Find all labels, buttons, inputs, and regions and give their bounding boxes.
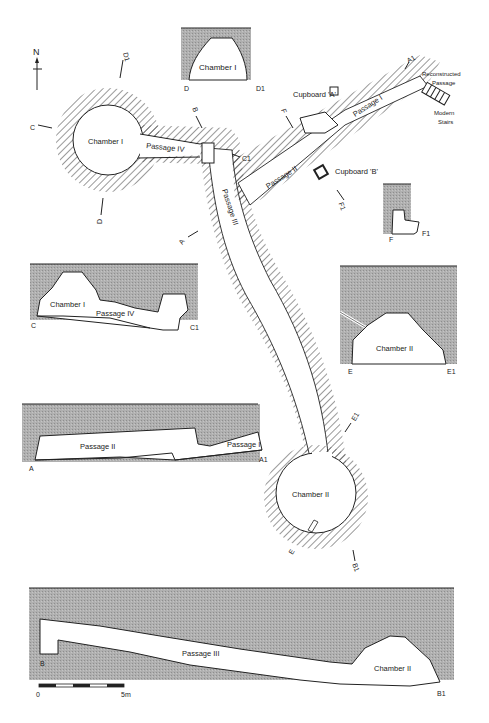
section-ff1-end: F1 — [422, 230, 430, 237]
marker-c1: C1 — [242, 155, 251, 162]
section-aa1-end: A1 — [259, 456, 268, 463]
section-cc1-end: C1 — [190, 324, 199, 331]
section-ff1-start: F — [389, 236, 393, 243]
cupboard-b-label: Cupboard 'B' — [335, 167, 378, 176]
section-ee1-start: E — [348, 368, 353, 375]
modern-stairs-label-2: Stairs — [438, 119, 453, 125]
scale-bar: 0 5m — [36, 684, 131, 698]
section-dd1-label: Chamber I — [199, 63, 236, 72]
section-aa1-label-1: Passage II — [80, 442, 115, 451]
section-c-c1: Chamber I Passage IV C C1 — [30, 264, 199, 331]
marker-f: F — [280, 108, 288, 114]
chamber-2-label: Chamber II — [292, 490, 329, 499]
section-cc1-label-1: Chamber I — [50, 300, 85, 309]
marker-e1: E1 — [350, 411, 360, 422]
marker-c: C — [30, 124, 35, 131]
cupboard-a-label: Cupboard 'A' — [293, 90, 336, 99]
section-ee1-end: E1 — [447, 368, 456, 375]
section-bb1-start: B — [40, 660, 45, 667]
reconstructed-passage-label-2: Passage — [432, 80, 456, 86]
section-ee1-label: Chamber II — [376, 344, 413, 353]
section-e-e1: Chamber II E E1 — [340, 266, 457, 375]
section-bb1-label-2: Chamber II — [374, 664, 411, 673]
section-dd1-end: D1 — [256, 85, 265, 92]
section-bb1-end: B1 — [437, 690, 446, 697]
section-bb1-label-1: Passage III — [182, 649, 220, 658]
section-aa1-start: A — [29, 465, 34, 472]
marker-a: A — [177, 238, 186, 246]
marker-d: D — [96, 219, 103, 224]
chamber-1-label: Chamber I — [88, 137, 123, 146]
marker-b1: B1 — [351, 562, 361, 573]
section-cc1-label-2: Passage IV — [96, 309, 134, 318]
section-aa1-label-2: Passage I — [227, 440, 260, 449]
section-a-a1: Passage II Passage I A A1 — [22, 404, 268, 472]
section-b-b1: Passage III Chamber II B B1 — [29, 588, 454, 697]
scale-bar-end: 5m — [121, 691, 131, 698]
marker-f1: F1 — [338, 201, 347, 211]
north-label: N — [33, 47, 40, 57]
cupboard-b-shape — [314, 165, 328, 179]
section-d-d1: Chamber I D D1 — [181, 28, 265, 92]
cave-survey-diagram: N — [0, 0, 489, 723]
section-cc1-start: C — [31, 322, 36, 329]
marker-b: B — [191, 106, 199, 113]
scale-bar-start: 0 — [36, 691, 40, 698]
modern-stairs-label-1: Modern — [434, 110, 454, 116]
marker-e: E — [287, 548, 296, 556]
reconstructed-passage-label-1: Reconstructed — [422, 71, 461, 77]
section-dd1-start: D — [184, 85, 189, 92]
north-arrow-icon: N — [33, 47, 42, 90]
section-f-f1: F F1 — [383, 184, 430, 243]
